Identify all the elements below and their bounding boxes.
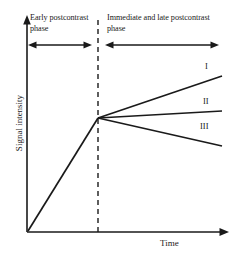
y-axis-title: Signal intensity (14, 68, 24, 178)
late-phase-arrowhead-left (105, 41, 114, 48)
curve-type-1-label: I (205, 62, 208, 71)
early-phase-span-arrow (28, 41, 92, 48)
x-axis (27, 228, 229, 236)
late-phase-arrowhead-right (211, 41, 220, 48)
early-phase-label: Early postcontrast phase (30, 13, 92, 34)
late-phase-label: Immediate and late postcontrast phase (107, 13, 229, 34)
curve-type-3-label: III (200, 122, 209, 131)
initial-enhancement-upslope (28, 118, 98, 231)
curve-type-2-label: II (203, 97, 209, 106)
signal-intensity-curve-figure: Early postcontrast phase Immediate and l… (0, 0, 239, 259)
x-axis-arrowhead (220, 228, 230, 236)
late-phase-span-arrow (105, 41, 219, 48)
y-axis (23, 15, 31, 232)
early-phase-arrowhead-left (28, 41, 37, 48)
early-phase-arrowhead-right (84, 41, 93, 48)
x-axis-title: Time (160, 238, 179, 248)
